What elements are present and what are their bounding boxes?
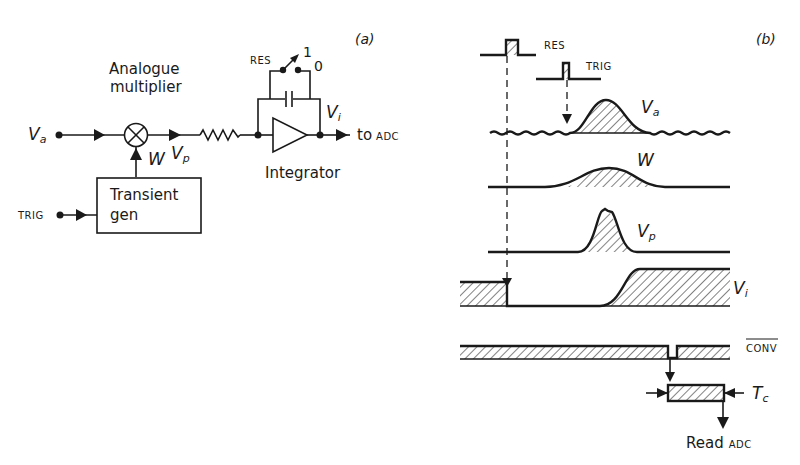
- panel-a-label: (a): [355, 31, 375, 47]
- cap-wire-left: [258, 99, 285, 135]
- va-trace: [490, 100, 730, 135]
- vp-arrow-icon: [169, 129, 181, 141]
- vi-timing-label: Vi: [733, 278, 748, 300]
- tc-label: Tc: [752, 383, 768, 405]
- w-arrow-icon: [130, 148, 142, 160]
- capacitor-icon: [286, 91, 292, 107]
- trig-label: TRIG: [17, 210, 44, 221]
- opamp-icon: [273, 118, 307, 152]
- w-trace: [488, 168, 730, 187]
- conv-trace: [460, 346, 730, 359]
- panel-b-label: (b): [756, 31, 776, 47]
- w-label: W: [148, 149, 166, 169]
- resistor-icon: [200, 130, 240, 140]
- res-pulse-trace: [480, 40, 536, 55]
- res-switch-label: RES: [250, 55, 271, 66]
- transient-gen-label-line2: gen: [110, 206, 138, 224]
- vp-trace: [488, 209, 730, 252]
- trig-arrow-icon: [76, 209, 87, 221]
- va-arrow-icon: [94, 129, 105, 141]
- integrator-label: Integrator: [265, 164, 341, 182]
- switch-pos-1: 1: [303, 44, 312, 60]
- trig-marker-arrow-icon: [562, 114, 572, 124]
- switch-wire-right: [298, 71, 310, 99]
- vi-label: Vi: [326, 102, 341, 124]
- multiplier-icon: [125, 124, 148, 147]
- switch-wire-left: [270, 71, 282, 99]
- conv-arrow-icon: [665, 372, 675, 382]
- read-adc-label: ReadADC: [686, 434, 752, 452]
- multiplier-label-line1: Analogue: [109, 60, 180, 78]
- vp-timing-label: Vp: [637, 221, 656, 243]
- tc-right-arrow-icon: [724, 388, 735, 398]
- output-arrow-icon: [336, 129, 348, 141]
- res-timing-label: RES: [544, 40, 565, 51]
- transient-gen-label-line1: Transient: [109, 186, 179, 204]
- vp-label: Vp: [171, 143, 190, 165]
- to-adc-label: toADC: [357, 126, 399, 144]
- vi-trace: [460, 269, 730, 306]
- w-timing-label: W: [637, 150, 655, 170]
- tc-left-arrow-icon: [657, 388, 668, 398]
- figure: (a) Va Analogue multiplier Vp W Transien…: [0, 0, 800, 465]
- multiplier-label-line2: multiplier: [110, 78, 182, 96]
- tc-conversion-box: [668, 385, 724, 401]
- trig-timing-label: TRIG: [585, 61, 612, 72]
- va-input-label: Va: [28, 124, 47, 146]
- va-timing-label: Va: [641, 97, 660, 119]
- read-adc-arrow-icon: [717, 417, 729, 429]
- svg-text:CONV: CONV: [746, 343, 777, 354]
- switch-pos-0: 0: [314, 58, 323, 74]
- reset-switch-icon: [280, 54, 301, 73]
- panel-a-circuit: (a) Va Analogue multiplier Vp W Transien…: [17, 31, 399, 233]
- panel-b-timing: (b) RES TRIG Va W: [460, 31, 778, 452]
- conv-timing-label: CONV: [746, 339, 778, 354]
